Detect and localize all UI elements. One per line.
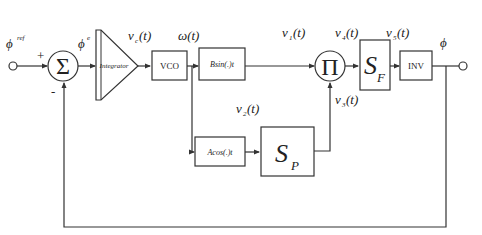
summing-junction: Σ: [48, 51, 78, 81]
error-label: ϕ e: [78, 34, 90, 51]
sf-main: S: [364, 51, 377, 80]
multiplier-junction: Π: [315, 51, 345, 81]
v4-label: v 4 (t): [335, 25, 358, 42]
output-phi-label: ϕ: [440, 35, 447, 50]
v3-arg: (t): [346, 92, 358, 107]
sp-filter-block: S P: [261, 127, 314, 176]
sf-sub: F: [376, 70, 386, 85]
v2-arg: (t): [247, 101, 259, 116]
bsin-block: Bsin(.)t: [199, 48, 245, 80]
input-terminal: [9, 62, 47, 70]
phi-e-symbol: ϕ: [78, 36, 85, 51]
integrator-label: Integrator: [99, 62, 129, 70]
omega-label: ω(t): [178, 28, 199, 43]
input-label: ϕ ref: [6, 34, 26, 51]
v1-symbol: v: [282, 25, 288, 40]
sigma-icon: Σ: [56, 53, 70, 79]
plus-sign: +: [37, 48, 44, 63]
phi-ref-superscript: ref: [17, 34, 26, 42]
minus-sign: -: [51, 84, 55, 99]
v2-symbol: v: [236, 101, 242, 116]
v1-arg: (t): [293, 25, 305, 40]
vc-arg: (t): [139, 28, 151, 43]
v2-label: v 2 (t): [236, 101, 259, 118]
inv-block: INV: [400, 51, 432, 80]
sf-filter-block: S F: [360, 40, 390, 90]
v1-label: v 1 (t): [282, 25, 305, 42]
sp-sub: P: [290, 158, 299, 173]
branch-line: [191, 66, 192, 152]
vc-label: v c (t): [128, 28, 151, 45]
v4-symbol: v: [335, 25, 341, 40]
pi-icon: Π: [321, 54, 338, 80]
v1-subscript: 1: [289, 34, 293, 42]
bsin-label: Bsin(.)t: [210, 60, 235, 69]
pll-block-diagram: ϕ ref + - Σ ϕ e Integrator v c (t) VCO ω…: [0, 0, 482, 235]
v3-symbol: v: [335, 92, 341, 107]
sp-main: S: [275, 139, 288, 168]
phi-e-superscript: e: [87, 34, 90, 42]
v5-symbol: v: [386, 25, 392, 40]
output-terminal: [459, 62, 467, 70]
acos-label: Acos(.)t: [206, 148, 233, 157]
inv-label: INV: [408, 61, 424, 71]
vc-symbol: v: [128, 28, 134, 43]
v4-arg: (t): [346, 25, 358, 40]
vco-block: VCO: [152, 51, 187, 80]
v3-line: [314, 83, 330, 151]
v5-arg: (t): [397, 25, 409, 40]
phi-ref-symbol: ϕ: [6, 36, 13, 51]
v3-label: v 3 (t): [335, 92, 358, 109]
vco-label: VCO: [160, 61, 180, 71]
v5-label: v 5 (t): [386, 25, 409, 42]
acos-block: Acos(.)t: [195, 137, 245, 166]
